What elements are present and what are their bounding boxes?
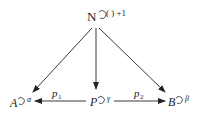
svg-text:p: p bbox=[51, 87, 58, 99]
node-p: P γ bbox=[89, 94, 111, 109]
edge-n-a bbox=[33, 28, 92, 92]
node-a-loop-label: α bbox=[27, 95, 32, 104]
edge-n-b bbox=[99, 28, 165, 92]
svg-text:2: 2 bbox=[140, 93, 144, 101]
node-b-loop-label: β bbox=[184, 94, 189, 103]
node-a-label: A bbox=[9, 96, 18, 110]
self-loop-icon bbox=[98, 97, 104, 104]
svg-text:1: 1 bbox=[58, 93, 62, 101]
node-p-loop-label: γ bbox=[107, 94, 111, 103]
edge-p1-label: p 1 bbox=[51, 87, 62, 101]
node-a: A α bbox=[9, 95, 32, 110]
node-n-label: N bbox=[87, 9, 97, 24]
node-n: N ( ) +1 bbox=[87, 8, 126, 24]
svg-text:p: p bbox=[133, 87, 140, 99]
diagram: N ( ) +1 A α P γ B β p 1 p 2 bbox=[0, 0, 201, 117]
node-n-loop-label: ( ) +1 bbox=[106, 8, 126, 18]
node-b: B β bbox=[168, 94, 189, 109]
self-loop-icon bbox=[18, 98, 24, 105]
self-loop-icon bbox=[99, 11, 106, 19]
self-loop-icon bbox=[176, 97, 182, 104]
node-p-label: P bbox=[89, 95, 98, 109]
edge-p2-label: p 2 bbox=[133, 87, 144, 101]
node-b-label: B bbox=[168, 95, 176, 109]
